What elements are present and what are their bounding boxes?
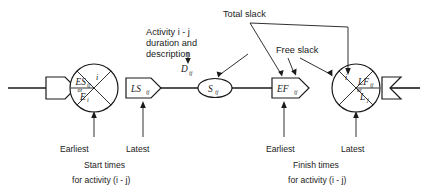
left-caption-group: Earliest Latest Start times for activity… (60, 101, 150, 185)
right-caption-line1: Finish times (293, 160, 339, 170)
start-event-es-subscript: ij (87, 81, 91, 88)
start-event-e-subscript: i (87, 96, 89, 103)
duration-subscript: ij (189, 69, 193, 76)
start-event-es-label: ES (75, 77, 87, 87)
free-slack-annotation: Free slack (276, 45, 332, 76)
slack-node: S ij (198, 54, 248, 98)
finish-event-lf-label: LF (357, 77, 369, 87)
right-caption-line2: for activity (i - j) (288, 175, 346, 185)
finish-event-node: i LF ij or L j (332, 64, 380, 112)
total-slack-label: Total slack (223, 9, 266, 19)
earliest-finish-label: EF (276, 84, 289, 94)
activity-annotation-line3: description (146, 49, 190, 59)
right-caption-latest: Latest (341, 144, 365, 154)
right-caption-group: Earliest Latest Finish times for activit… (266, 101, 365, 185)
total-slack-annotation: Total slack (223, 9, 351, 77)
finish-event-l-subscript: j (366, 96, 369, 103)
free-slack-label: Free slack (276, 45, 319, 55)
right-caption-earliest: Earliest (266, 144, 295, 154)
activity-annotation-line2: duration and (146, 38, 197, 48)
latest-start-label: LS (130, 84, 141, 94)
left-caption-latest: Latest (126, 144, 150, 154)
latest-start-subscript: ij (146, 88, 150, 95)
start-event-node: i ES ij or E i (70, 64, 118, 112)
latest-start-node: LS ij (126, 78, 161, 98)
earliest-finish-node: EF ij (272, 78, 309, 98)
activity-annotation-line1: Activity i - j (146, 27, 190, 37)
finish-event-lf-subscript: ij (370, 81, 374, 88)
slack-subscript: ij (215, 88, 219, 95)
left-caption-earliest: Earliest (60, 144, 89, 154)
finish-event-l-label: L (359, 92, 365, 102)
pert-cpm-notation-diagram: i ES ij or E i LS ij D ij Activity i - j… (0, 0, 428, 194)
start-event-e-label: E (79, 92, 86, 102)
earliest-finish-subscript: ij (294, 88, 298, 95)
activity-annotation: Activity i - j duration and description (146, 27, 197, 59)
slack-label: S (208, 84, 213, 94)
duration-label: D (180, 64, 188, 74)
left-caption-line1: Start times (84, 160, 125, 170)
left-caption-line2: for activity (i - j) (72, 175, 130, 185)
